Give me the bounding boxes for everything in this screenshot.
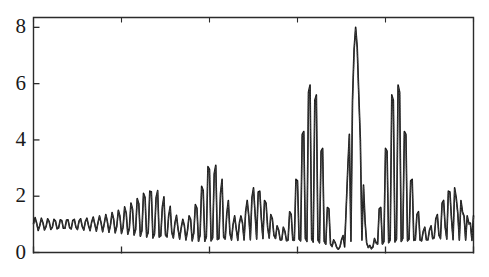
line-chart-plot [0, 0, 489, 277]
y-axis-tick-label: 4 [4, 129, 26, 150]
y-axis-tick-label: 2 [4, 185, 26, 206]
y-axis-tick-label: 6 [4, 73, 26, 94]
chart-figure: 02468 [0, 0, 489, 277]
y-axis-tick-label: 0 [4, 242, 26, 263]
y-axis-tick-label: 8 [4, 16, 26, 37]
